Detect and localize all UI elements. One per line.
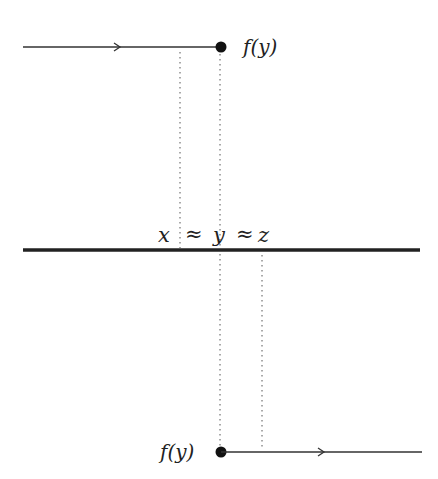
label-y: y — [212, 223, 226, 247]
top-point — [216, 42, 227, 53]
label-z: z — [257, 223, 270, 247]
approx-symbol-1: ≈ — [185, 222, 203, 246]
approx-symbol-2: ≈ — [236, 222, 254, 246]
top-label: f(y) — [241, 35, 277, 59]
bottom-label: f(y) — [158, 440, 194, 464]
diagram-canvas: f(y) x ≈ y ≈ z f(y) — [0, 0, 438, 479]
label-x: x — [158, 223, 170, 247]
